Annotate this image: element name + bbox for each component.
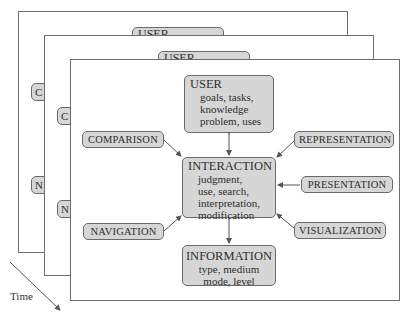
interaction-line: use, search, (188, 185, 275, 197)
user-line: knowledge (190, 103, 273, 115)
navigation-label: NAVIGATION (91, 226, 157, 237)
ghost-navigation-label: N (61, 203, 69, 215)
ghost-comparison-label: C (61, 110, 68, 122)
user-title: USER (190, 78, 273, 91)
ghost-navigation-label: N (35, 179, 43, 191)
time-axis-label: Time (10, 290, 33, 302)
comparison-label: COMPARISON (88, 134, 158, 145)
visualization-label: VISUALIZATION (299, 225, 382, 236)
presentation-node: PRESENTATION (301, 176, 393, 193)
user-line: problem, uses (190, 115, 273, 127)
presentation-label: PRESENTATION (308, 179, 387, 190)
user-line: goals, tasks, (190, 91, 273, 103)
representation-node: REPRESENTATION (294, 131, 394, 148)
visualization-node: VISUALIZATION (294, 222, 386, 239)
information-title: INFORMATION (185, 250, 273, 263)
interaction-line: modification (188, 209, 275, 221)
interaction-line: judgment, (188, 173, 275, 185)
information-line: type, medium (185, 263, 273, 275)
representation-label: REPRESENTATION (299, 134, 391, 145)
information-box: INFORMATION type, medium mode, level (182, 245, 276, 286)
comparison-node: COMPARISON (82, 131, 164, 148)
information-line: mode, level (185, 275, 273, 287)
interaction-line: interpretation, (188, 197, 275, 209)
user-box: USER goals, tasks, knowledge problem, us… (184, 75, 274, 133)
navigation-node: NAVIGATION (83, 223, 164, 240)
interaction-title: INTERACTION (188, 160, 275, 173)
ghost-comparison-label: C (35, 86, 42, 98)
interaction-box: INTERACTION judgment, use, search, inter… (182, 157, 276, 218)
